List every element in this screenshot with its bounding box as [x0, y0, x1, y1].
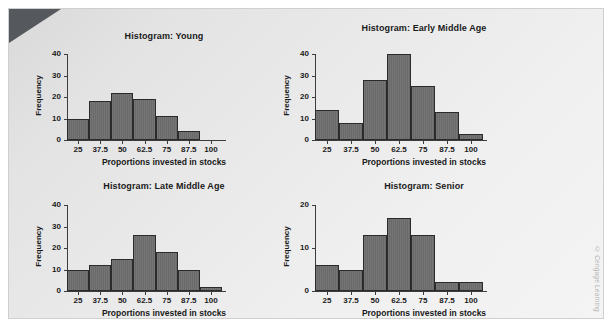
y-tick-label-late-middle-age-3: 30: [41, 222, 61, 231]
y-tick-label-young-0: 0: [41, 135, 61, 144]
x-tick-late-middle-age-0: [78, 292, 79, 295]
x-tick-early-middle-age-3: [399, 141, 400, 144]
y-tick-label-young-3: 30: [41, 71, 61, 80]
y-tick-label-late-middle-age-1: 10: [41, 265, 61, 274]
y-tick-label-young-2: 20: [41, 92, 61, 101]
y-tick-label-late-middle-age-0: 0: [41, 286, 61, 295]
y-tick-young-4: [64, 54, 68, 55]
y-tick-label-early-middle-age-0: 0: [289, 135, 309, 144]
y-tick-label-senior-0: 0: [289, 286, 309, 295]
histogram-bar: [459, 282, 483, 291]
x-tick-late-middle-age-2: [122, 292, 123, 295]
y-tick-label-young-1: 10: [41, 114, 61, 123]
x-tick-senior-1: [351, 292, 352, 295]
figure-panel: © Cengage Learning Histogram: YoungFrequ…: [8, 8, 604, 319]
histogram-bar: [435, 282, 459, 291]
y-tick-label-early-middle-age-3: 30: [289, 71, 309, 80]
histogram-bar: [435, 112, 459, 140]
x-tick-label-senior-6: 100: [457, 296, 485, 305]
y-tick-senior-2: [312, 205, 316, 206]
copyright-watermark: © Cengage Learning: [594, 246, 601, 312]
x-tick-label-early-middle-age-6: 100: [457, 145, 485, 154]
histogram-bar: [387, 54, 411, 140]
histogram-bar: [459, 134, 483, 140]
histogram-bar: [363, 235, 387, 291]
x-tick-senior-4: [423, 292, 424, 295]
y-tick-early-middle-age-4: [312, 54, 316, 55]
histogram-panel-young: [23, 23, 293, 163]
histogram-bar: [67, 270, 89, 292]
histogram-bar: [315, 265, 339, 291]
histogram-bar: [315, 110, 339, 140]
y-tick-label-senior-1: 10: [289, 243, 309, 252]
x-tick-young-2: [122, 141, 123, 144]
x-axis-line-senior: [315, 291, 487, 292]
histogram-bar: [89, 265, 111, 291]
x-tick-early-middle-age-2: [375, 141, 376, 144]
y-tick-early-middle-age-3: [312, 76, 316, 77]
x-tick-late-middle-age-1: [100, 292, 101, 295]
y-tick-label-late-middle-age-2: 20: [41, 243, 61, 252]
x-tick-senior-3: [399, 292, 400, 295]
histogram-bar: [133, 235, 155, 291]
histogram-bar: [339, 123, 363, 140]
histogram-bar: [411, 235, 435, 291]
chart-title-senior: Histogram: Senior: [299, 181, 549, 191]
histogram-bar: [411, 86, 435, 140]
x-tick-early-middle-age-5: [447, 141, 448, 144]
x-tick-senior-6: [471, 292, 472, 295]
histogram-bar: [200, 287, 222, 291]
x-tick-early-middle-age-0: [327, 141, 328, 144]
x-tick-young-0: [78, 141, 79, 144]
y-tick-young-3: [64, 76, 68, 77]
histogram-bar: [363, 80, 387, 140]
x-tick-late-middle-age-3: [145, 292, 146, 295]
x-tick-young-1: [100, 141, 101, 144]
chart-title-early-middle-age: Histogram: Early Middle Age: [299, 23, 549, 33]
histogram-bar: [339, 270, 363, 292]
y-tick-young-0: [64, 140, 68, 141]
y-tick-early-middle-age-0: [312, 140, 316, 141]
x-tick-senior-2: [375, 292, 376, 295]
x-tick-late-middle-age-6: [211, 292, 212, 295]
histogram-bar: [387, 218, 411, 291]
histogram-bar: [133, 99, 155, 140]
x-tick-senior-0: [327, 292, 328, 295]
x-tick-late-middle-age-4: [167, 292, 168, 295]
y-tick-late-middle-age-4: [64, 205, 68, 206]
histogram-bar: [89, 101, 111, 140]
y-tick-late-middle-age-0: [64, 291, 68, 292]
x-axis-label-young: Proportions invested in stocks: [49, 157, 279, 167]
y-tick-label-early-middle-age-2: 20: [289, 92, 309, 101]
y-tick-late-middle-age-3: [64, 227, 68, 228]
y-tick-label-early-middle-age-4: 40: [289, 49, 309, 58]
x-axis-line-young: [67, 140, 226, 141]
y-tick-early-middle-age-2: [312, 97, 316, 98]
y-tick-senior-0: [312, 291, 316, 292]
y-tick-senior-1: [312, 248, 316, 249]
chart-title-young: Histogram: Young: [49, 31, 279, 41]
histogram-bar: [111, 259, 133, 291]
y-tick-young-2: [64, 97, 68, 98]
chart-title-late-middle-age: Histogram: Late Middle Age: [49, 181, 279, 191]
x-tick-young-6: [211, 141, 212, 144]
x-tick-label-late-middle-age-6: 100: [197, 296, 225, 305]
x-axis-line-late-middle-age: [67, 291, 226, 292]
x-axis-label-late-middle-age: Proportions invested in stocks: [49, 308, 279, 318]
x-tick-young-3: [145, 141, 146, 144]
y-tick-label-young-4: 40: [41, 49, 61, 58]
x-axis-label-senior: Proportions invested in stocks: [299, 308, 549, 318]
y-tick-label-late-middle-age-4: 40: [41, 200, 61, 209]
x-tick-early-middle-age-6: [471, 141, 472, 144]
histogram-bar: [111, 93, 133, 140]
histogram-bar: [67, 119, 89, 141]
x-tick-young-5: [189, 141, 190, 144]
histogram-bar: [156, 116, 178, 140]
x-axis-line-early-middle-age: [315, 140, 487, 141]
x-tick-label-young-6: 100: [197, 145, 225, 154]
x-tick-early-middle-age-4: [423, 141, 424, 144]
x-tick-young-4: [167, 141, 168, 144]
x-tick-early-middle-age-1: [351, 141, 352, 144]
histogram-bar: [156, 252, 178, 291]
y-tick-label-senior-2: 20: [289, 200, 309, 209]
